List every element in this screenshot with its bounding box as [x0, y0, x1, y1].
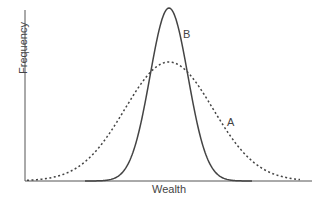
curve-a-label: A: [227, 116, 234, 128]
chart-canvas: [0, 0, 322, 201]
x-axis-label: Wealth: [152, 183, 186, 195]
curve-b-label: B: [183, 28, 190, 40]
y-axis-label: Frequency: [17, 13, 29, 83]
curve-b: [85, 8, 252, 181]
curve-a: [27, 62, 300, 180]
